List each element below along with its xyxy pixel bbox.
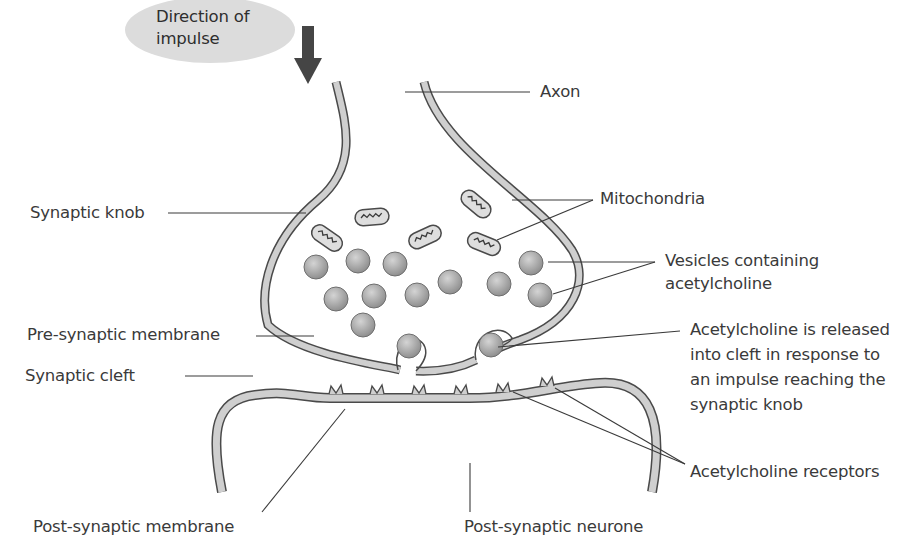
ach-released-label-line4: synaptic knob bbox=[690, 394, 803, 416]
mitochondria bbox=[308, 187, 502, 258]
ach-receptors-label: Acetylcholine receptors bbox=[690, 461, 879, 483]
mitochondria-label: Mitochondria bbox=[600, 188, 705, 210]
synaptic-knob-label: Synaptic knob bbox=[30, 202, 145, 224]
axon-label: Axon bbox=[540, 81, 580, 103]
post-synaptic-membrane-label: Post-synaptic membrane bbox=[33, 516, 234, 538]
vesicles-label-line1: Vesicles containing bbox=[665, 250, 819, 272]
synaptic-knob-shape bbox=[265, 82, 579, 371]
impulse-label-line2: impulse bbox=[156, 28, 220, 50]
synaptic-cleft-label: Synaptic cleft bbox=[25, 365, 135, 387]
ach-released-label-line3: an impulse reaching the bbox=[690, 369, 885, 391]
synapse-diagram: Direction of impulse Axon Synaptic knob … bbox=[0, 0, 915, 555]
arrow-down-icon bbox=[294, 26, 322, 84]
impulse-label-line1: Direction of bbox=[156, 6, 249, 28]
pre-synaptic-membrane-label: Pre-synaptic membrane bbox=[27, 324, 220, 346]
post-synaptic-neurone-label: Post-synaptic neurone bbox=[464, 516, 643, 538]
post-synaptic-neurone-shape bbox=[216, 377, 656, 492]
ach-released-label-line1: Acetylcholine is released bbox=[690, 319, 890, 341]
ach-released-label-line2: into cleft in response to bbox=[690, 344, 880, 366]
vesicles-label-line2: acetylcholine bbox=[665, 273, 772, 295]
